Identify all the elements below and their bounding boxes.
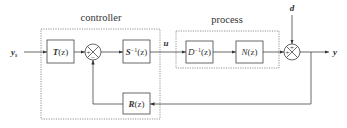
R-to-sum-wire (93, 60, 123, 104)
block-R-label: R(z) (127, 99, 144, 109)
feedback-wire (150, 52, 311, 104)
block-T-label: T(z) (53, 47, 69, 57)
block-diagram: controller process ys T(z) + − S−1(z) u … (0, 0, 347, 128)
disturbance-label: d (290, 3, 295, 13)
block-N-label: N(z) (240, 47, 257, 57)
block-S-inverse-label: S−1(z) (126, 47, 147, 57)
controller-sum-plus-sign: + (87, 49, 91, 57)
output-signal-label: y (332, 47, 338, 57)
input-signal-label: ys (10, 47, 18, 58)
output-sum-top-plus-sign: + (290, 44, 294, 52)
control-signal-label: u (163, 38, 168, 48)
output-sum-left-plus-sign: + (286, 49, 290, 57)
process-group-label: process (211, 14, 243, 25)
controller-group-label: controller (81, 12, 122, 23)
